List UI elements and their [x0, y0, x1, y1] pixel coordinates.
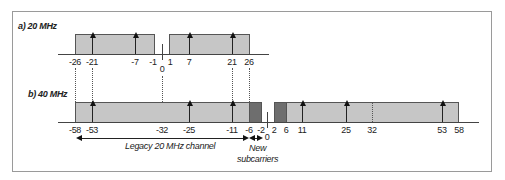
tick-label: 53	[437, 125, 446, 135]
tick-label: -25	[183, 125, 195, 135]
tick-label: -6	[245, 125, 252, 135]
pilot-arrow-icon	[232, 37, 233, 54]
tick-label: 26	[244, 57, 253, 67]
tick-label: -26	[69, 57, 81, 67]
tick-label: 6	[284, 125, 289, 135]
panel-a-zero-tick	[162, 44, 163, 60]
pilot-arrow-icon	[92, 105, 93, 122]
tick-label: -21	[86, 57, 98, 67]
tick-label: -53	[86, 125, 98, 135]
tick-label: -32	[156, 125, 168, 135]
dotted-connector	[92, 68, 93, 102]
panel-a-axis	[58, 54, 269, 55]
panel-a-label: a) 20 MHz	[18, 21, 57, 31]
panel-b-new-subcarriers-lower	[249, 102, 262, 122]
dotted-center-32	[372, 103, 373, 122]
pilot-arrow-icon	[92, 37, 93, 54]
pilot-arrow-icon	[232, 105, 233, 122]
tick-label: 21	[227, 57, 236, 67]
new-subcarriers-label-line2: subcarriers	[237, 154, 278, 164]
tick-label: 25	[341, 125, 350, 135]
tick-label: 32	[367, 125, 376, 135]
panel-a-upper-band	[169, 34, 250, 54]
tick-label: 11	[298, 125, 307, 135]
pilot-arrow-icon	[189, 37, 190, 54]
pilot-arrow-icon	[442, 105, 443, 122]
pilot-arrow-icon	[135, 37, 136, 54]
arrow-right-icon	[257, 135, 263, 141]
panel-b-axis	[58, 122, 479, 123]
pilot-arrow-icon	[346, 105, 347, 122]
legacy-span-line	[79, 138, 245, 139]
panel-b-label: b) 40 MHz	[28, 89, 67, 99]
panel-b-zero-tick	[267, 112, 268, 128]
tick-label: 0	[265, 132, 270, 142]
new-subcarriers-label-line1: New	[249, 143, 266, 153]
legacy-channel-label: Legacy 20 MHz channel	[125, 141, 215, 151]
panel-a-lower-band	[75, 34, 155, 54]
tick-label: 0	[160, 64, 165, 74]
pilot-arrow-icon	[189, 105, 190, 122]
panel-b-legacy-band	[75, 102, 250, 122]
tick-label: 1	[168, 57, 173, 67]
pilot-arrow-icon	[302, 105, 303, 122]
tick-label: -58	[69, 125, 81, 135]
tick-label: -1	[149, 57, 156, 67]
tick-label: -11	[226, 125, 237, 135]
dotted-connector	[75, 68, 76, 102]
tick-label: 2	[272, 125, 277, 135]
tick-label: 7	[187, 57, 192, 67]
arrow-left-icon	[76, 135, 82, 141]
tick-label: -7	[131, 57, 138, 67]
dotted-connector	[249, 68, 250, 102]
tick-label: -2	[257, 125, 264, 135]
arrow-left-icon	[249, 135, 255, 141]
tick-label: 58	[454, 125, 463, 135]
